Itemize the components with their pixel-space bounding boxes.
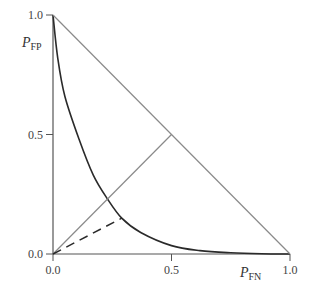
x-tick-label: 0.5 [164,263,179,277]
equal-error-diagonal-line [53,135,172,255]
y-tick-label: 0.0 [28,247,43,261]
x-tick-label: 1.0 [283,263,298,277]
chart: 0.00.00.50.51.01.0 PFP PFN [0,0,317,291]
dashed-segment-line [53,218,122,254]
axis-labels: PFP PFN [21,35,261,282]
y-tick-label: 1.0 [28,8,43,22]
plot-lines [53,15,290,254]
y-tick-label: 0.5 [28,128,43,142]
y-axis-label: PFP [21,35,42,52]
x-tick-label: 0.0 [46,263,61,277]
x-axis-label: PFN [239,265,261,282]
